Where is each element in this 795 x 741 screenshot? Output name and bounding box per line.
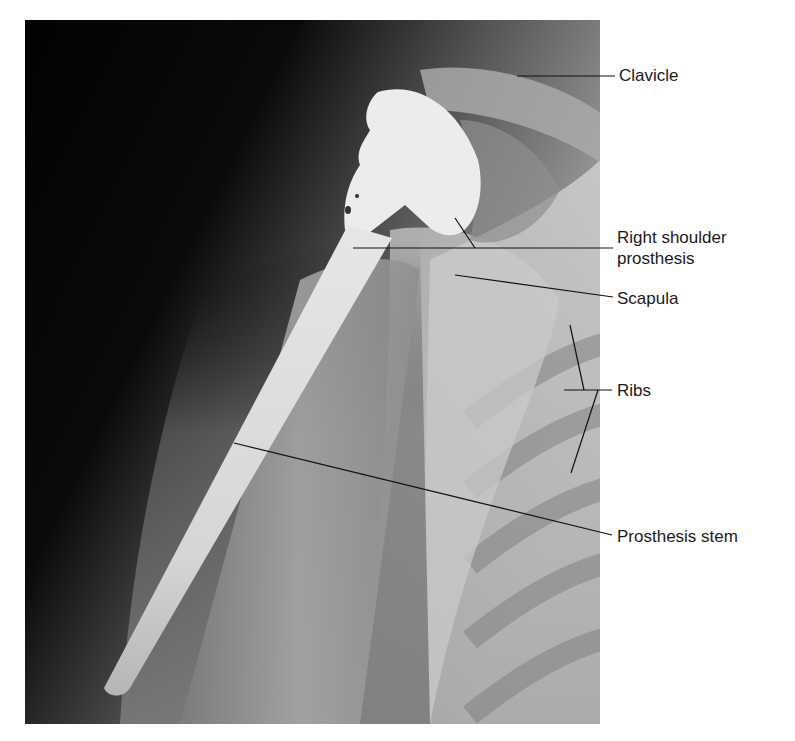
label-prosthesis-stem: Prosthesis stem <box>617 527 738 547</box>
xray-figure <box>0 0 795 741</box>
label-clavicle: Clavicle <box>619 66 679 86</box>
label-scapula: Scapula <box>617 289 678 309</box>
label-prosthesis-line1: Right shoulder <box>617 228 727 248</box>
label-prosthesis-line2: prosthesis <box>617 249 694 269</box>
label-ribs: Ribs <box>617 381 651 401</box>
